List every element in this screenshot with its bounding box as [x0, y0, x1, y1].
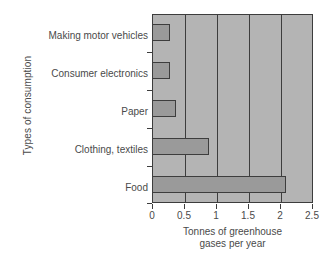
bar-making-motor-vehicles	[152, 24, 170, 41]
x-axis-title-line1: Tonnes of greenhouse	[152, 226, 313, 238]
gridline-2	[281, 15, 282, 202]
y-tick-label-consumer-electronics: Consumer electronics	[0, 68, 148, 79]
bar-food	[152, 176, 286, 193]
x-axis-tick	[280, 204, 281, 209]
bar-consumer-electronics	[152, 62, 170, 79]
x-tick-label-2.5: 2.5	[292, 210, 332, 221]
y-tick-label-making-motor-vehicles: Making motor vehicles	[0, 30, 148, 41]
x-axis-tick	[312, 204, 313, 209]
x-axis-tick	[216, 204, 217, 209]
y-tick-label-clothing-textiles: Clothing, textiles	[0, 144, 148, 155]
y-tick-label-food: Food	[0, 182, 148, 193]
bar-chart: Types of consumption Making motor vehicl…	[0, 0, 332, 268]
x-axis-tick	[152, 204, 153, 209]
gridline-1.5	[249, 15, 250, 202]
gridline-1	[217, 15, 218, 202]
y-tick-label-paper: Paper	[0, 106, 148, 117]
bar-paper	[152, 100, 176, 117]
plot-area	[152, 14, 313, 203]
bar-clothing-textiles	[152, 138, 209, 155]
x-axis-title: Tonnes of greenhouse gases per year	[152, 226, 313, 250]
gridline-0.5	[185, 15, 186, 202]
x-axis-title-line2: gases per year	[152, 238, 313, 250]
x-axis-tick	[248, 204, 249, 209]
x-axis-tick	[184, 204, 185, 209]
